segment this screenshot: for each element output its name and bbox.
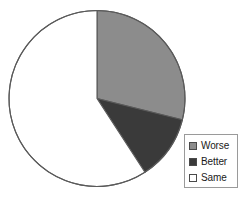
legend-label-same: Same [201,173,227,183]
legend-swatch-worse [189,142,197,150]
legend-swatch-better [189,158,197,166]
legend-item-same[interactable]: Same [189,170,234,186]
pie-chart: Worse Better Same [0,0,242,206]
legend-item-worse[interactable]: Worse [189,138,234,154]
pie-slices [9,11,185,187]
chart-legend: Worse Better Same [184,134,238,188]
legend-item-better[interactable]: Better [189,154,234,170]
legend-label-worse: Worse [201,141,229,151]
legend-label-better: Better [201,157,227,167]
legend-swatch-same [189,174,197,182]
